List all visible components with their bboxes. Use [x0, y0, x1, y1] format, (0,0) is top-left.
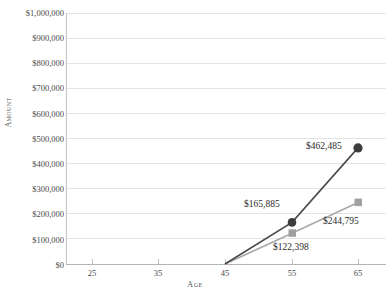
series-dark-marker [353, 143, 362, 152]
data-label-462485: $462,485 [306, 141, 342, 151]
x-tick-label: 25 [72, 268, 112, 278]
x-tick-label: 35 [138, 268, 178, 278]
data-label-244795: $244,795 [323, 216, 359, 226]
x-tick-label: 45 [205, 268, 245, 278]
x-tick-label: 55 [272, 268, 312, 278]
series-light-marker [289, 229, 297, 237]
series-dark-marker [288, 218, 297, 227]
chart-container: Amount $1,000,000 $900,000 $800,000 $700… [0, 0, 390, 292]
x-axis-title: Age [0, 280, 390, 289]
data-label-165885: $165,885 [244, 199, 280, 209]
data-label-122398: $122,398 [273, 242, 309, 252]
gridlines [66, 14, 386, 239]
series-light-marker [355, 199, 363, 207]
x-tick-label: 65 [338, 268, 378, 278]
